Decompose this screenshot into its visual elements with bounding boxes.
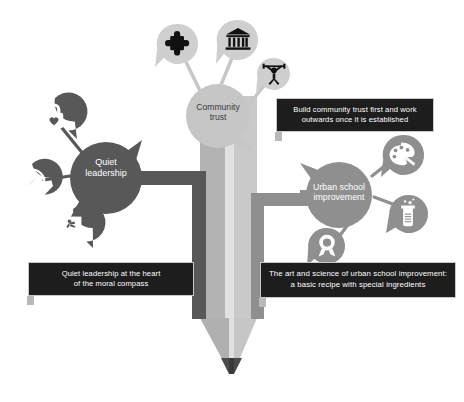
caption-community-trust: Build community trust first and work out… bbox=[276, 98, 434, 132]
caption-quiet-leadership-text: Quiet leadership at the heart of the mor… bbox=[62, 269, 161, 290]
flag-icon bbox=[62, 217, 82, 240]
caption-community-trust-text: Build community trust first and work out… bbox=[293, 105, 416, 126]
icon-pin-compass[interactable] bbox=[20, 159, 63, 195]
caption-quiet-leadership: Quiet leadership at the heart of the mor… bbox=[28, 262, 194, 296]
caption-tab-icon bbox=[27, 296, 34, 305]
icon-pin-palette[interactable] bbox=[381, 135, 424, 177]
node-urban-school-improvement[interactable] bbox=[300, 162, 372, 228]
caption-urban-school-improvement: The art and science of urban school impr… bbox=[260, 262, 456, 298]
branch-left bbox=[128, 171, 206, 319]
icon-pin-bank[interactable] bbox=[216, 20, 258, 64]
compass-icon bbox=[20, 170, 45, 195]
icon-pin-award[interactable] bbox=[307, 228, 345, 266]
icon-pin-puzzle[interactable] bbox=[155, 24, 198, 67]
caption-tab-icon bbox=[259, 298, 266, 307]
icon-pin-flag[interactable] bbox=[62, 203, 106, 248]
mind-map-svg bbox=[0, 0, 464, 402]
diagram-canvas bbox=[0, 0, 464, 402]
caption-urban-school-improvement-text: The art and science of urban school impr… bbox=[269, 269, 447, 290]
icon-pin-beaker[interactable] bbox=[386, 195, 428, 233]
caption-tab-icon bbox=[275, 132, 282, 141]
